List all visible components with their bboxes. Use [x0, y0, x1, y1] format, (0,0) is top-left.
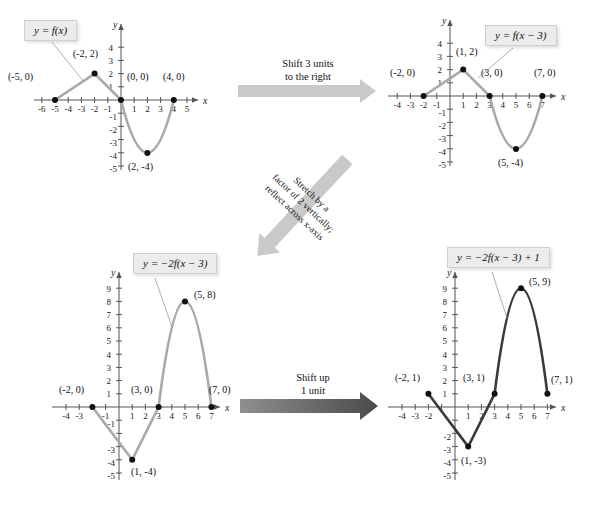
point-label: (5, -4) — [498, 157, 523, 169]
arrow-caption-shift-up: Shift up 1 unit — [263, 371, 363, 397]
data-point — [118, 97, 124, 103]
arrow-caption-line2: 1 unit — [263, 384, 363, 397]
tick-label: -4 — [439, 147, 447, 157]
x-axis-label: x — [560, 402, 566, 413]
tick-label: -1 — [439, 108, 447, 118]
tick-label: -2 — [425, 411, 433, 421]
tick-label: 4 — [438, 39, 443, 49]
tick-label: 2 — [438, 65, 443, 75]
tick-label: 3 — [443, 363, 448, 373]
tick-label: -4 — [393, 100, 401, 110]
tick-label: 5 — [519, 411, 524, 421]
data-point — [518, 285, 524, 291]
point-label: (4, 0) — [163, 71, 185, 83]
data-point — [544, 391, 550, 397]
tick-label: 2 — [109, 69, 114, 79]
tick-label: 3 — [158, 104, 163, 114]
data-point — [425, 391, 431, 397]
graph-original: -6 -5 -4 -3 -2 -1 1 2 3 4 5 4 3 2 1 -1 -… — [8, 19, 208, 174]
tick-label: -5 — [439, 160, 447, 170]
tick-label: -4 — [110, 151, 118, 161]
point-label: (1, -4) — [131, 466, 156, 478]
point-label: (3, 0) — [131, 384, 153, 396]
tick-label: -3 — [78, 104, 86, 114]
equation-label-shift-right: y = f(x − 3) — [485, 25, 557, 46]
data-point — [52, 97, 58, 103]
data-point — [539, 93, 545, 99]
point-label: (1, -3) — [461, 455, 486, 467]
data-point — [208, 404, 214, 410]
arrow-caption-line1: Shift 3 units — [258, 57, 358, 70]
tick-label: 3 — [492, 411, 497, 421]
tick-label: 5 — [107, 336, 112, 346]
tick-label: 3 — [438, 52, 443, 62]
y-axis-arrowhead — [118, 24, 124, 30]
equation-label-stretch-reflect: y = −2f(x − 3) — [133, 253, 217, 274]
tick-label: 7 — [209, 411, 214, 421]
data-point — [492, 391, 498, 397]
tick-label: 4 — [170, 411, 175, 421]
data-point — [465, 444, 471, 450]
tick-label: -2 — [91, 104, 99, 114]
tick-label: -3 — [439, 134, 447, 144]
tick-label: 4 — [506, 411, 511, 421]
tick-label: 6 — [107, 323, 112, 333]
graph-shift-up: -4 -3 -2 1 2 3 4 5 6 7 9 8 7 6 5 4 3 2 1… — [388, 267, 573, 481]
tick-label: -5 — [51, 104, 59, 114]
point-label: (5, 8) — [194, 289, 216, 301]
tick-label: 5 — [514, 100, 519, 110]
tick-label: 2 — [107, 376, 112, 386]
tick-label: 1 — [466, 411, 471, 421]
arrow-caption-line1: Shift up — [263, 371, 363, 384]
tick-label: -6 — [38, 104, 46, 114]
curve-segment-parabola — [159, 301, 212, 407]
tick-label: 1 — [107, 389, 112, 399]
tick-label: 2 — [474, 100, 479, 110]
tick-label: 5 — [185, 104, 190, 114]
curve-segment-linear — [428, 394, 494, 447]
data-point — [144, 150, 150, 156]
x-axis-label: x — [202, 95, 208, 106]
x-axis-arrowhead — [214, 404, 220, 410]
leader-line — [492, 272, 507, 318]
tick-label: 8 — [107, 297, 112, 307]
point-label: (7, 0) — [209, 384, 231, 396]
tick-label: 6 — [532, 411, 537, 421]
tick-label: 1 — [132, 104, 137, 114]
point-label: (-2, 0) — [390, 67, 415, 79]
x-axis-label: x — [560, 91, 566, 102]
point-label: (0, 0) — [127, 71, 149, 83]
tick-label: 4 — [109, 43, 114, 53]
arrow-caption-line2: to the right — [258, 70, 358, 83]
arrow-caption-shift-right: Shift 3 units to the right — [258, 57, 358, 83]
point-label: (-5, 0) — [8, 71, 33, 83]
y-axis-label: y — [112, 19, 118, 30]
tick-label: -5 — [108, 471, 116, 481]
tick-label: 5 — [443, 336, 448, 346]
point-label: (-2, 0) — [59, 384, 84, 396]
data-point — [89, 404, 95, 410]
point-label: (3, 1) — [463, 372, 485, 384]
tick-label: 1 — [130, 411, 135, 421]
tick-label: -4 — [62, 411, 70, 421]
equation-label-original: y = f(x) — [24, 20, 77, 41]
x-axis-arrowhead — [550, 404, 556, 410]
tick-label: -2 — [420, 100, 428, 110]
graph-stretch-reflect: -4 -3 -1 1 2 3 4 5 6 7 9 8 7 6 5 4 3 2 1… — [52, 267, 231, 481]
equation-label-shift-up: y = −2f(x − 3) + 1 — [447, 247, 550, 268]
x-axis-arrowhead — [550, 93, 556, 99]
y-axis-arrowhead — [452, 272, 458, 278]
tick-label: -5 — [444, 471, 452, 481]
point-label: (1, 2) — [456, 46, 478, 58]
point-label: (2, -4) — [128, 161, 153, 173]
tick-label: -4 — [64, 104, 72, 114]
data-point — [487, 93, 493, 99]
tick-label: -4 — [398, 411, 406, 421]
tick-label: 2 — [145, 104, 150, 114]
tick-label: 3 — [107, 363, 112, 373]
data-point — [129, 457, 135, 463]
data-point — [182, 298, 188, 304]
tick-label: 7 — [443, 310, 448, 320]
point-label: (7, 1) — [551, 374, 573, 386]
tick-label: 7 — [107, 310, 112, 320]
